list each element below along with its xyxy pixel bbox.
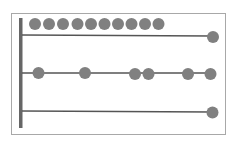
bead[interactable] <box>139 18 151 30</box>
bead[interactable] <box>153 18 165 30</box>
bottom-row-beads <box>207 107 219 119</box>
bead[interactable] <box>207 31 219 43</box>
bead[interactable] <box>33 67 45 79</box>
bead[interactable] <box>29 18 41 30</box>
bead[interactable] <box>85 18 97 30</box>
rod-bottom <box>22 111 212 112</box>
bead[interactable] <box>43 18 55 30</box>
bead[interactable] <box>205 68 217 80</box>
abacus-diagram <box>0 0 239 145</box>
bead[interactable] <box>99 18 111 30</box>
bead[interactable] <box>72 18 84 30</box>
bead[interactable] <box>182 68 194 80</box>
bead[interactable] <box>126 18 138 30</box>
rod-top <box>22 35 212 36</box>
bead[interactable] <box>112 18 124 30</box>
bead[interactable] <box>79 67 91 79</box>
bead[interactable] <box>143 68 155 80</box>
bead[interactable] <box>129 68 141 80</box>
bead[interactable] <box>207 107 219 119</box>
abacus-post <box>19 18 23 128</box>
bead[interactable] <box>57 18 69 30</box>
